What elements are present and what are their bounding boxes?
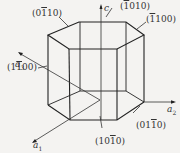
a3-axis: [19, 53, 100, 100]
plane-label-1-1bar-0-0: (1100): [7, 63, 37, 72]
plane-label-1-0-1bar-0: (1010): [95, 137, 125, 146]
a1-axis-label: a1: [33, 141, 42, 152]
plane-label-1bar-0-1-0: (1010): [120, 2, 150, 11]
a1-axis: [33, 100, 100, 142]
hexagonal-prism-diagram: c a3 a1 a2 (0110) (1010) (1100) (1100) (…: [0, 0, 180, 153]
a2-axis-label: a2: [167, 105, 176, 116]
plane-label-0-1-1bar-0: (0110): [136, 121, 166, 130]
top-face: [48, 22, 144, 49]
plane-label-1bar-1-0-0: (1100): [146, 15, 176, 24]
c-axis-label: c: [104, 4, 109, 13]
bottom-front-edges: [48, 102, 144, 120]
plane-label-0-1bar-1-0: (0110): [32, 9, 62, 18]
